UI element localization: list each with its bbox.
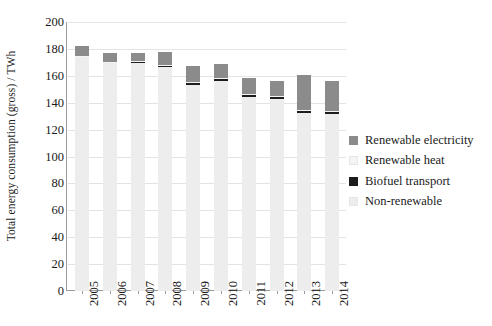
y-axis-tick-label: 120: [24, 124, 64, 137]
bar-2014: [325, 22, 339, 291]
bar-segment: [214, 81, 228, 291]
x-axis-tick-mark: [82, 291, 83, 294]
legend-item-2[interactable]: Biofuel transport: [349, 172, 489, 190]
legend-item-1[interactable]: Renewable heat: [349, 152, 489, 170]
x-axis-tick-label: 2008: [171, 281, 184, 325]
bar-segment: [297, 113, 311, 291]
y-axis-tick-label: 60: [24, 204, 64, 217]
bar-2010: [214, 22, 228, 291]
bar-segment: [75, 56, 89, 291]
x-axis-tick-mark: [138, 291, 139, 294]
bar-segment: [270, 99, 284, 291]
legend-label: Renewable heat: [365, 154, 444, 167]
bar-segment: [325, 111, 339, 114]
y-axis-tick-label: 100: [24, 151, 64, 164]
stacked-bar-chart: Total energy consumption (gross) / TWh 0…: [0, 0, 492, 326]
y-axis-line: [66, 22, 67, 291]
x-axis-tick-label: 2009: [199, 281, 212, 325]
bar-segment: [325, 114, 339, 291]
x-axis-tick-label: 2011: [255, 281, 268, 325]
x-axis-tick-mark: [277, 291, 278, 294]
bar-segment: [242, 95, 256, 98]
bar-segment: [242, 78, 256, 95]
bar-2012: [270, 22, 284, 291]
bar-2013: [297, 22, 311, 291]
bar-segment: [158, 52, 172, 64]
x-axis-tick-label: 2005: [88, 281, 101, 325]
x-axis-tick-mark: [110, 291, 111, 294]
y-axis-tick-label: 0: [24, 285, 64, 298]
legend-item-3[interactable]: Non-renewable: [349, 193, 489, 211]
bar-segment: [186, 66, 200, 81]
y-axis-tick-label: 160: [24, 70, 64, 83]
bar-segment: [131, 62, 145, 291]
x-axis-tick-mark: [249, 291, 250, 294]
legend-swatch-icon: [349, 136, 358, 145]
x-axis-tick-label: 2010: [227, 281, 240, 325]
bar-segment: [103, 62, 117, 291]
bar-2006: [103, 22, 117, 291]
bar-segment: [131, 53, 145, 61]
x-axis-tick-mark: [165, 291, 166, 294]
plot-area: [68, 22, 346, 291]
bar-2009: [186, 22, 200, 291]
bar-segment: [270, 96, 284, 99]
x-axis-tick-label: 2007: [144, 281, 157, 325]
bar-segment: [158, 65, 172, 67]
bar-2011: [242, 22, 256, 291]
bar-segment: [242, 97, 256, 291]
bar-segment: [158, 67, 172, 291]
y-axis-tick-label: 40: [24, 231, 64, 244]
bar-segment: [186, 82, 200, 85]
bar-segment: [297, 110, 311, 113]
y-axis-tick-label: 200: [24, 16, 64, 29]
x-axis-tick-label: 2013: [310, 281, 323, 325]
x-axis-tick-mark: [304, 291, 305, 294]
bar-segment: [270, 81, 284, 96]
chart-legend: Renewable electricityRenewable heatBiofu…: [349, 131, 489, 213]
bar-segment: [131, 62, 145, 63]
legend-label: Biofuel transport: [365, 175, 450, 188]
bar-segment: [214, 64, 228, 78]
x-axis-tick-mark: [221, 291, 222, 294]
bar-2005: [75, 22, 89, 291]
legend-label: Non-renewable: [365, 195, 442, 208]
bar-2008: [158, 22, 172, 291]
x-axis-tick-labels: 2005200620072008200920102011201220132014: [68, 291, 346, 326]
bar-segment: [186, 85, 200, 291]
legend-swatch-icon: [349, 197, 358, 206]
x-axis-tick-mark: [193, 291, 194, 294]
legend-swatch-icon: [349, 177, 358, 186]
bar-2007: [131, 22, 145, 291]
bar-segment: [214, 79, 228, 82]
bar-segment: [325, 81, 339, 111]
y-axis-tick-labels: 020406080100120140160180200: [24, 0, 64, 326]
legend-item-0[interactable]: Renewable electricity: [349, 131, 489, 149]
y-axis-tick-label: 20: [24, 258, 64, 271]
y-axis-tick-label: 140: [24, 97, 64, 110]
x-axis-tick-mark: [332, 291, 333, 294]
y-axis-title: Total energy consumption (gross) / TWh: [2, 0, 20, 292]
x-axis-tick-label: 2014: [338, 281, 351, 325]
legend-label: Renewable electricity: [365, 134, 474, 147]
y-axis-tick-label: 80: [24, 177, 64, 190]
legend-swatch-icon: [349, 156, 358, 165]
x-axis-tick-label: 2012: [283, 281, 296, 325]
bar-segment: [103, 62, 117, 63]
x-axis-tick-label: 2006: [116, 281, 129, 325]
bar-segment: [103, 53, 117, 62]
bar-segment: [75, 46, 89, 55]
y-axis-tick-label: 180: [24, 43, 64, 56]
bar-segment: [297, 75, 311, 110]
